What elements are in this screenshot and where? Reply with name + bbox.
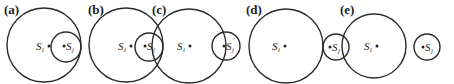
panel-label-c: (c) — [152, 2, 166, 17]
node-sj-subscript: j — [337, 47, 340, 55]
node-si-dot — [376, 45, 379, 48]
node-si-subscript: i — [278, 46, 280, 54]
panel-c: (c) S i S j — [152, 2, 240, 83]
node-si-dot — [48, 45, 51, 48]
node-si-subscript: i — [183, 46, 185, 54]
node-sj-subscript: j — [430, 47, 433, 55]
node-sj-subscript: j — [71, 46, 74, 54]
panel-label-b: (b) — [88, 2, 104, 17]
large-circle-si — [342, 14, 406, 78]
node-si-dot — [130, 45, 133, 48]
node-si-dot — [189, 45, 192, 48]
panel-e: (e) S i S j — [340, 2, 440, 78]
panel-label-e: (e) — [340, 2, 354, 17]
node-sj-subscript: j — [231, 46, 234, 54]
panel-d: (d) S i S j — [246, 2, 349, 83]
node-si-subscript: i — [42, 46, 44, 54]
node-si-dot — [284, 45, 287, 48]
node-si-subscript: i — [124, 46, 126, 54]
panel-label-d: (d) — [246, 2, 262, 17]
panel-label-a: (a) — [4, 2, 19, 17]
panel-a: (a) S i S j — [4, 2, 81, 82]
node-si-subscript: i — [370, 46, 372, 54]
circle-relations-figure: (a) S i S j (b) S i S j (c) S i S j (d) — [0, 0, 454, 84]
